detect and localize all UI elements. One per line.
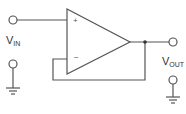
junction-dot-icon bbox=[143, 40, 147, 44]
input-ground-terminal-icon bbox=[9, 60, 17, 68]
input-terminal-icon bbox=[9, 16, 17, 24]
circuit-schematic bbox=[0, 0, 186, 114]
output-ground-terminal-icon bbox=[169, 76, 177, 84]
output-terminal-icon bbox=[169, 38, 177, 46]
vout-label: VOUT bbox=[162, 55, 184, 68]
input-ground-icon bbox=[6, 88, 20, 94]
opamp-minus-sign: − bbox=[74, 53, 79, 62]
output-ground-icon bbox=[166, 97, 180, 103]
opamp-plus-sign: + bbox=[73, 16, 78, 25]
vin-label: VIN bbox=[6, 34, 20, 47]
